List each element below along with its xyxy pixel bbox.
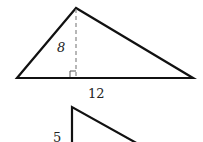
right-angle-marker [70, 71, 76, 77]
triangle-1: 8 12 [17, 8, 193, 101]
side-label: 5 [53, 130, 61, 142]
height-label: 8 [57, 40, 65, 55]
triangle-1-outline [17, 8, 193, 78]
triangle-2: 5 [53, 107, 140, 142]
base-label: 12 [88, 86, 105, 101]
geometry-figure: 8 12 5 [0, 0, 203, 142]
triangle-2-outline [72, 107, 140, 142]
